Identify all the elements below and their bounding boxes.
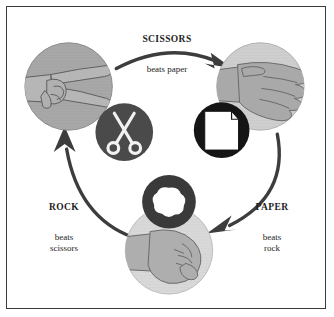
scissors-hand-circle [15, 43, 112, 130]
label-paper: PAPER beats rock [229, 183, 315, 272]
label-rock-sub: beats scissors [21, 232, 107, 253]
rock-ring-icon [142, 175, 196, 229]
scissors-icon [95, 103, 153, 161]
label-scissors: SCISSORS beats paper [102, 15, 232, 93]
label-paper-title: PAPER [229, 202, 315, 213]
label-scissors-sub: beats paper [102, 64, 232, 75]
diagram-frame: SCISSORS beats paper ROCK beats scissors… [6, 6, 326, 309]
label-rock-title: ROCK [21, 202, 107, 213]
label-paper-sub: beats rock [229, 232, 315, 253]
label-rock: ROCK beats scissors [21, 183, 107, 272]
diagram-stage: SCISSORS beats paper ROCK beats scissors… [7, 7, 325, 308]
paper-sheet-icon [194, 102, 250, 158]
label-scissors-title: SCISSORS [102, 34, 232, 45]
